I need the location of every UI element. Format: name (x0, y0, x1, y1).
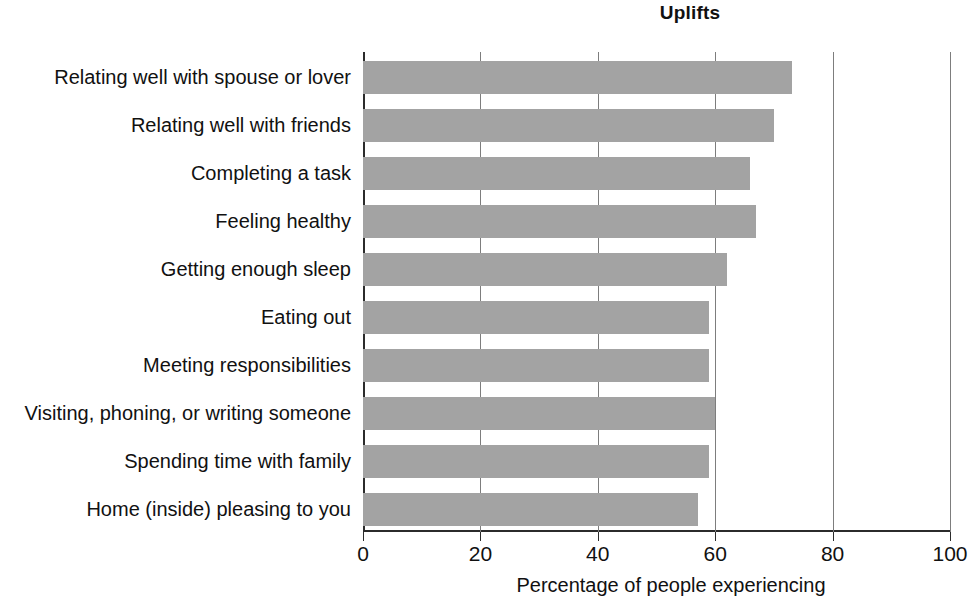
bar-row (363, 349, 950, 382)
category-label: Meeting responsibilities (143, 355, 351, 375)
bar-row (363, 157, 950, 190)
bar (363, 349, 709, 382)
chart-title-text: Uplifts (660, 2, 721, 24)
category-label: Spending time with family (124, 451, 351, 471)
x-tick-label-60: 60 (704, 542, 727, 566)
x-axis-title-text: Percentage of people experiencing (516, 574, 825, 597)
x-tick-label-0: 0 (357, 542, 369, 566)
tick-mark-40 (598, 532, 599, 541)
bar-row (363, 109, 950, 142)
bar (363, 253, 727, 286)
bar-row (363, 493, 950, 526)
bar-row (363, 253, 950, 286)
x-axis-line (363, 530, 950, 532)
tick-mark-0 (363, 532, 364, 541)
bar-row (363, 397, 950, 430)
tick-mark-80 (833, 532, 834, 541)
bar (363, 205, 756, 238)
category-label: Eating out (261, 307, 351, 327)
bar-row (363, 61, 950, 94)
category-label-column: Relating well with spouse or loverRelati… (0, 52, 363, 532)
tick-mark-20 (480, 532, 481, 541)
category-label: Feeling healthy (215, 211, 351, 231)
x-axis-title: Percentage of people experiencing (0, 574, 972, 597)
x-tick-label-20: 20 (469, 542, 492, 566)
category-label: Home (inside) pleasing to you (86, 499, 351, 519)
chart-title: Uplifts (0, 2, 972, 24)
bar (363, 301, 709, 334)
bar-row (363, 445, 950, 478)
bar (363, 109, 774, 142)
bar (363, 445, 709, 478)
bar (363, 157, 750, 190)
tick-mark-100 (950, 532, 951, 541)
x-tick-label-100: 100 (932, 542, 967, 566)
bar (363, 397, 715, 430)
bar (363, 493, 698, 526)
category-label: Completing a task (191, 163, 351, 183)
chart-container: Uplifts Relating well with spouse or lov… (0, 0, 972, 610)
category-label: Visiting, phoning, or writing someone (25, 403, 351, 423)
category-label: Relating well with friends (131, 115, 351, 135)
tick-mark-60 (715, 532, 716, 541)
category-label: Relating well with spouse or lover (54, 67, 351, 87)
bar-row (363, 301, 950, 334)
bar (363, 61, 792, 94)
x-tick-label-40: 40 (586, 542, 609, 566)
category-label: Getting enough sleep (161, 259, 351, 279)
plot-area (363, 52, 950, 532)
x-tick-label-80: 80 (821, 542, 844, 566)
bar-row (363, 205, 950, 238)
gridline-100 (950, 52, 951, 532)
